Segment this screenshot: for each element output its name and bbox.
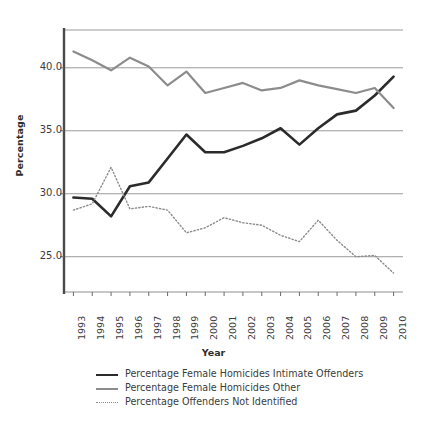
x-tick-label: 1999 [190, 300, 200, 340]
legend-item-label: Percentage Female Homicides Intimate Off… [125, 369, 363, 379]
plot-area: 25.030.035.040.0 Percentage [0, 0, 427, 300]
x-tick-label: 1993 [77, 300, 87, 340]
x-tick-label: 2006 [322, 300, 332, 340]
x-tick-label: 2010 [398, 300, 408, 340]
solid-dark-line-swatch [96, 368, 118, 380]
y-tick-label: 35.0 [22, 125, 62, 135]
plot-svg [0, 0, 427, 300]
solid-grey-line-swatch [96, 382, 118, 394]
x-tick-label: 1994 [96, 300, 106, 340]
x-tick-label: 1996 [134, 300, 144, 340]
x-tick-label: 2008 [360, 300, 370, 340]
y-axis-tick-labels: 25.030.035.040.0 [20, 0, 62, 300]
x-tick-marks [73, 292, 393, 296]
y-tick-label: 30.0 [22, 188, 62, 198]
x-tick-label: 1997 [153, 300, 163, 340]
y-axis-title: Percentage [14, 101, 25, 191]
legend-item-label: Percentage Offenders Not Identified [125, 397, 297, 407]
legend-item-label: Percentage Female Homicides Other [125, 383, 300, 393]
x-tick-label: 1995 [115, 300, 125, 340]
x-tick-label: 2007 [341, 300, 351, 340]
x-axis-tick-labels: 1993199419951996199719981999200020012002… [0, 300, 427, 348]
x-tick-label: 2001 [228, 300, 238, 340]
legend-item: Percentage Female Homicides Other [96, 381, 416, 395]
x-tick-label: 2005 [303, 300, 313, 340]
x-tick-label: 2003 [266, 300, 276, 340]
legend-item: Percentage Female Homicides Intimate Off… [96, 367, 416, 381]
line-chart: 25.030.035.040.0 Percentage 199319941995… [0, 0, 427, 437]
series-lines [73, 51, 393, 273]
y-tick-label: 25.0 [22, 251, 62, 261]
x-tick-label: 2004 [285, 300, 295, 340]
legend-item: Percentage Offenders Not Identified [96, 395, 416, 409]
x-tick-label: 2000 [209, 300, 219, 340]
x-axis-title: Year [0, 347, 427, 358]
chart-legend: Percentage Female Homicides Intimate Off… [96, 367, 416, 409]
dotted-grey-line-swatch [96, 396, 118, 408]
x-tick-label: 1998 [172, 300, 182, 340]
series-line-0 [73, 77, 393, 217]
series-line-2 [73, 167, 393, 273]
x-tick-label: 2009 [379, 300, 389, 340]
x-tick-label: 2002 [247, 300, 257, 340]
series-line-1 [73, 51, 393, 108]
y-tick-label: 40.0 [22, 62, 62, 72]
gridlines [64, 30, 403, 257]
